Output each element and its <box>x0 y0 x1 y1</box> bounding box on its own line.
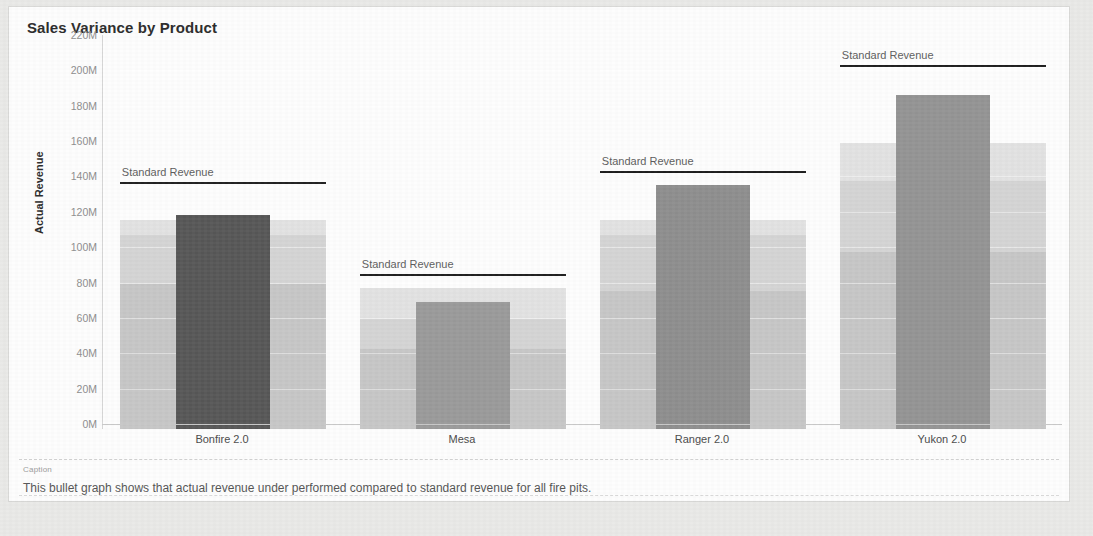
measure-bar[interactable] <box>896 95 990 429</box>
gridline <box>600 141 806 142</box>
gridline <box>360 176 566 177</box>
caption-label: Caption <box>23 465 52 474</box>
measure-bar[interactable] <box>416 302 510 429</box>
y-axis-tick-labels: 220M200M180M160M140M120M100M80M60M40M20M… <box>49 35 97 429</box>
caption-text: This bullet graph shows that actual reve… <box>23 481 591 495</box>
reference-line <box>360 274 566 276</box>
bullet-group <box>103 35 343 429</box>
x-axis-category-label: Ranger 2.0 <box>675 433 729 445</box>
reference-line-label: Standard Revenue <box>122 166 214 178</box>
y-axis-tick: 220M <box>71 29 97 41</box>
bullet-group <box>823 35 1063 429</box>
gridline <box>840 70 1046 71</box>
y-axis-tick: 200M <box>71 64 97 76</box>
y-axis-tick: 20M <box>77 383 97 395</box>
visualization-card: Sales Variance by Product Actual Revenue… <box>8 6 1070 502</box>
reference-line <box>120 182 326 184</box>
x-axis-category-label: Mesa <box>449 433 476 445</box>
y-axis-tick: 0M <box>82 418 97 430</box>
y-axis-tick: 40M <box>77 347 97 359</box>
gridline <box>120 70 326 71</box>
y-axis-tick: 140M <box>71 170 97 182</box>
gridline <box>600 70 806 71</box>
x-axis-category-label: Bonfire 2.0 <box>195 433 248 445</box>
gridline <box>360 283 566 284</box>
y-axis-tick: 100M <box>71 241 97 253</box>
y-axis-title: Actual Revenue <box>33 218 45 234</box>
x-axis-line <box>102 424 1062 425</box>
page-title: Sales Variance by Product <box>27 19 217 36</box>
card-bottom-divider <box>19 495 1059 497</box>
bullet-group <box>343 35 583 429</box>
reference-line <box>840 65 1046 67</box>
reference-line-label: Standard Revenue <box>602 155 694 167</box>
gridline <box>360 106 566 107</box>
reference-line-label: Standard Revenue <box>362 258 454 270</box>
y-axis-tick: 60M <box>77 312 97 324</box>
gridline <box>360 141 566 142</box>
reference-line <box>600 171 806 173</box>
x-axis-category-label: Yukon 2.0 <box>918 433 967 445</box>
gridline <box>600 106 806 107</box>
y-axis-tick: 180M <box>71 100 97 112</box>
y-axis-tick: 160M <box>71 135 97 147</box>
chart-plot-area: Actual Revenue 220M200M180M160M140M120M1… <box>9 35 1071 455</box>
reference-line-label: Standard Revenue <box>842 49 934 61</box>
y-axis-tick: 80M <box>77 277 97 289</box>
measure-bar[interactable] <box>176 215 270 429</box>
gridline <box>120 212 326 213</box>
bullet-group <box>583 35 823 429</box>
caption-divider <box>19 459 1059 461</box>
y-axis-tick: 120M <box>71 206 97 218</box>
measure-bar[interactable] <box>656 185 750 429</box>
gridline <box>360 247 566 248</box>
gridline <box>360 212 566 213</box>
gridline <box>120 141 326 142</box>
gridline <box>120 106 326 107</box>
plot-canvas: Standard RevenueStandard RevenueStandard… <box>102 35 1062 429</box>
gridline <box>600 176 806 177</box>
gridline <box>360 70 566 71</box>
